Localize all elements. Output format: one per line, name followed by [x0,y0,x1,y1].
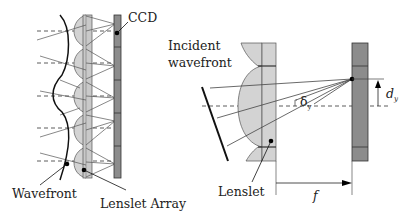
right-diagram: Incident wavefront Lenslet f δy dy [168,38,399,203]
ccd-sensor-right [352,43,368,161]
label-displacement: dy [386,86,399,103]
f-arrow-head [342,180,352,186]
rays-right [210,79,352,146]
label-wavefront: Wavefront [12,186,77,201]
label-ccd: CCD [128,10,157,25]
d-symbol: d [386,86,394,101]
label-lenslet: Lenslet [218,184,265,199]
dy-arrow-head [375,80,381,88]
ccd-sensor [114,15,121,178]
label-lenslet-array: Lenslet Array [100,196,187,211]
label-incident: Incident [168,38,220,53]
delta-subscript: y [307,103,312,111]
incident-wavefront [202,87,228,161]
distorted-wavefront [53,15,69,180]
label-incident-wavefront: wavefront [168,55,232,70]
delta-symbol: δ [300,94,308,109]
label-delta: δy [300,94,312,111]
delta-angle-arc [295,100,297,106]
d-subscript: y [393,95,399,103]
label-focal-length: f [312,188,320,203]
left-diagram: CCD Wavefront Lenslet Array [12,10,187,211]
shack-hartmann-diagram: CCD Wavefront Lenslet Array [0,0,408,216]
wavefront-leader-line [40,164,67,185]
